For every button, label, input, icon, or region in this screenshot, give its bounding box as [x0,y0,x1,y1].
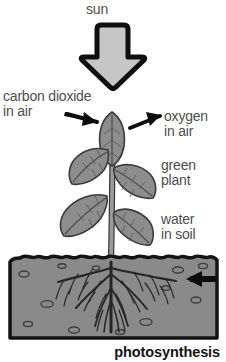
label-oxygen: oxygen in air [164,109,208,139]
label-sun: sun [86,2,108,17]
photosynthesis-diagram: sun carbon dioxide in air oxygen in air … [0,0,226,362]
leaf-lower-right [114,209,154,245]
diagram-caption: photosynthesis [0,344,220,360]
label-carbon-dioxide: carbon dioxide in air [3,89,91,119]
sunlight-arrow-icon [81,25,145,89]
green-plant-icon [60,112,155,262]
label-green-plant: green plant [161,158,196,188]
soil-block-icon [10,256,217,338]
oxygen-arrow-icon [130,112,161,128]
label-water-in-soil: water in soil [161,212,195,242]
